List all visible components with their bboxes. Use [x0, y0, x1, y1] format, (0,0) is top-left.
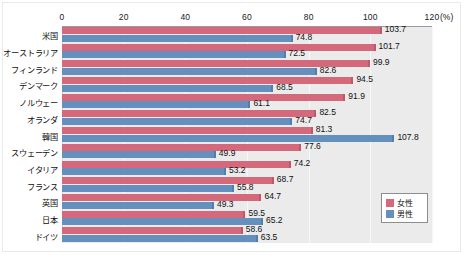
bar-end-cap [289, 161, 291, 168]
bar-value-label: 74.7 [295, 117, 312, 124]
bar-female [62, 77, 353, 84]
bar-wrapper: 49.3 [62, 202, 432, 209]
bar-end-cap [259, 194, 261, 201]
bar-female [62, 161, 291, 168]
bar-wrapper: 99.9 [62, 60, 432, 67]
category-label: 韓国 [0, 130, 58, 142]
bar-row: 64.749.3 [62, 193, 432, 210]
legend-item[interactable]: 女性 [386, 197, 423, 208]
category-label: デンマーク [0, 79, 58, 91]
bar-end-cap [243, 211, 245, 218]
chart-legend: 女性男性 [381, 193, 428, 223]
category-label: フィンランド [0, 63, 58, 75]
bar-end-cap [284, 51, 286, 58]
bar-row: 58.663.5 [62, 226, 432, 243]
bar-row: 74.253.2 [62, 160, 432, 177]
bar-value-label: 74.8 [296, 34, 313, 41]
bar-female [62, 27, 382, 34]
category-label: 英国 [0, 196, 58, 208]
bar-row: 99.982.6 [62, 59, 432, 76]
bar-end-cap [248, 101, 250, 108]
bar-male [62, 118, 292, 125]
y-axis-category-labels: 米国オーストラリアフィンランドデンマークノルウェーオランダ韓国スウェーデンイタリ… [0, 26, 58, 243]
category-label: 日本 [0, 213, 58, 225]
bar-row: 94.568.5 [62, 76, 432, 93]
bar-wrapper: 64.7 [62, 194, 432, 201]
bar-row: 77.649.9 [62, 143, 432, 160]
x-tick-label: 40 [180, 12, 190, 22]
bar-value-label: 99.9 [373, 59, 390, 66]
bar-end-cap [290, 118, 292, 125]
bar-male [62, 101, 250, 108]
bar-wrapper: 74.7 [62, 118, 432, 125]
bar-value-label: 72.5 [289, 50, 306, 57]
bar-male [62, 135, 394, 142]
bar-male [62, 85, 273, 92]
bar-end-cap [311, 127, 313, 134]
x-tick-label: 120 [425, 12, 440, 22]
bar-value-label: 59.5 [248, 210, 265, 217]
bar-value-label: 53.2 [229, 167, 246, 174]
bar-male [62, 202, 214, 209]
bar-wrapper: 74.8 [62, 35, 432, 42]
bar-end-cap [271, 85, 273, 92]
bar-value-label: 64.7 [264, 193, 281, 200]
bar-wrapper: 55.8 [62, 185, 432, 192]
bar-female [62, 227, 243, 234]
bar-wrapper: 82.5 [62, 110, 432, 117]
bar-end-cap [314, 110, 316, 117]
bar-value-label: 91.9 [348, 93, 365, 100]
x-tick-label: 60 [242, 12, 252, 22]
bar-end-cap [315, 68, 317, 75]
bar-male [62, 218, 263, 225]
bar-wrapper: 59.5 [62, 211, 432, 218]
bar-value-label: 77.6 [304, 143, 321, 150]
bar-end-cap [343, 94, 345, 101]
x-tick-label: 20 [119, 12, 129, 22]
bar-female [62, 127, 313, 134]
bar-male [62, 235, 258, 242]
bar-end-cap [351, 77, 353, 84]
bar-value-label: 61.1 [253, 100, 270, 107]
bar-male [62, 151, 216, 158]
bar-value-label: 55.8 [237, 184, 254, 191]
bar-end-cap [232, 185, 234, 192]
bar-value-label: 49.3 [217, 201, 234, 208]
bar-wrapper: 103.7 [62, 27, 432, 34]
bar-value-label: 81.3 [316, 126, 333, 133]
bar-female [62, 211, 245, 218]
legend-item[interactable]: 男性 [386, 208, 423, 219]
bar-male [62, 185, 234, 192]
bar-end-cap [241, 227, 243, 234]
category-label: オランダ [0, 113, 58, 125]
chart-figure: 020406080100120(%) 米国オーストラリアフィンランドデンマークノ… [0, 0, 464, 255]
bar-row: 91.961.1 [62, 93, 432, 110]
bar-female [62, 110, 316, 117]
bar-end-cap [368, 60, 370, 67]
bar-value-label: 68.5 [276, 84, 293, 91]
bar-male [62, 68, 317, 75]
bar-value-label: 49.9 [219, 150, 236, 157]
bar-wrapper: 91.9 [62, 94, 432, 101]
x-axis-unit-label: (%) [440, 12, 453, 22]
bar-row: 81.3107.8 [62, 126, 432, 143]
bar-wrapper: 63.5 [62, 235, 432, 242]
legend-color-swatch [386, 210, 394, 218]
bar-end-cap [299, 144, 301, 151]
category-label: 米国 [0, 29, 58, 41]
x-tick-label: 0 [60, 12, 65, 22]
bar-wrapper: 49.9 [62, 151, 432, 158]
bar-end-cap [374, 44, 376, 51]
bar-female [62, 94, 345, 101]
bar-end-cap [392, 135, 394, 142]
bar-female [62, 144, 301, 151]
bar-row: 82.574.7 [62, 109, 432, 126]
bar-end-cap [256, 235, 258, 242]
category-label: スウェーデン [0, 146, 58, 158]
bar-end-cap [224, 168, 226, 175]
x-tick-label: 80 [304, 12, 314, 22]
bar-end-cap [380, 27, 382, 34]
bar-wrapper: 94.5 [62, 77, 432, 84]
bar-male [62, 51, 286, 58]
bar-end-cap [214, 151, 216, 158]
